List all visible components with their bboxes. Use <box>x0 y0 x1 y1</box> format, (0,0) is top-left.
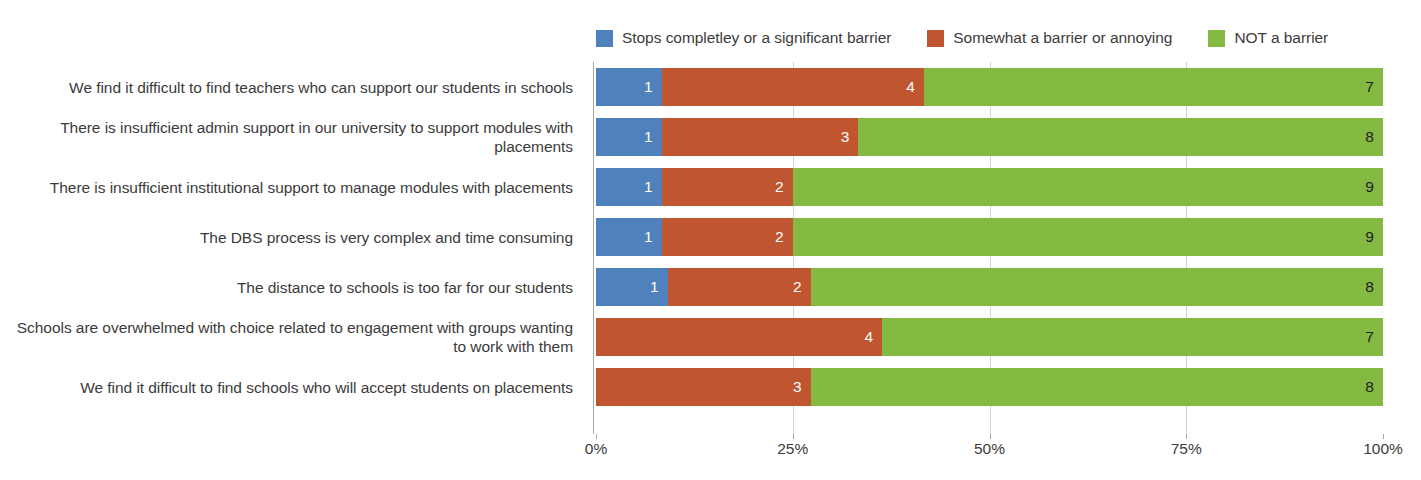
bar-segment-somewhat-5[interactable]: 4 <box>596 318 882 356</box>
bar-value-not-2: 9 <box>1365 178 1383 196</box>
bar-value-not-3: 9 <box>1365 228 1383 246</box>
bar-value-not-6: 8 <box>1365 378 1383 396</box>
bar-value-somewhat-4: 2 <box>793 278 811 296</box>
category-label-2: There is insufficient institutional supp… <box>0 178 583 197</box>
bar-value-not-4: 8 <box>1365 278 1383 296</box>
bar-segment-not-0[interactable]: 7 <box>924 68 1383 106</box>
bar-value-not-5: 7 <box>1365 328 1383 346</box>
chart-plot-area: We find it difficult to find teachers wh… <box>0 62 1421 434</box>
table-row: We find it difficult to find schools who… <box>0 362 1421 412</box>
x-axis-tick-0 <box>596 434 597 439</box>
legend-swatch-orange-icon <box>927 30 944 47</box>
category-label-4: The distance to schools is too far for o… <box>0 278 583 297</box>
stacked-bar-5: 0 4 7 <box>596 318 1383 356</box>
bar-segment-not-3[interactable]: 9 <box>793 218 1383 256</box>
bar-segment-not-5[interactable]: 7 <box>882 318 1383 356</box>
bar-segment-stops-2[interactable]: 1 <box>596 168 662 206</box>
bar-segment-stops-0[interactable]: 1 <box>596 68 662 106</box>
x-axis-tick-25 <box>793 434 794 439</box>
bar-value-somewhat-3: 2 <box>775 228 793 246</box>
x-axis: 0% 25% 50% 75% 100% <box>596 434 1383 464</box>
bar-segment-not-1[interactable]: 8 <box>858 118 1383 156</box>
legend-item-not-a-barrier[interactable]: NOT a barrier <box>1208 29 1328 47</box>
stacked-bar-6: 0 3 8 <box>596 368 1383 406</box>
bar-value-stops-3: 1 <box>644 228 662 246</box>
legend-label-stops-completely: Stops completley or a significant barrie… <box>622 29 891 47</box>
x-axis-label-0: 0% <box>585 440 607 458</box>
legend-label-somewhat-barrier: Somewhat a barrier or annoying <box>953 29 1172 47</box>
legend-swatch-blue-icon <box>596 30 613 47</box>
table-row: The DBS process is very complex and time… <box>0 212 1421 262</box>
legend-label-not-a-barrier: NOT a barrier <box>1234 29 1328 47</box>
legend-swatch-green-icon <box>1208 30 1225 47</box>
bar-segment-not-2[interactable]: 9 <box>793 168 1383 206</box>
table-row: The distance to schools is too far for o… <box>0 262 1421 312</box>
bar-segment-stops-3[interactable]: 1 <box>596 218 662 256</box>
bar-segment-stops-1[interactable]: 1 <box>596 118 662 156</box>
stacked-bar-2: 1 2 9 <box>596 168 1383 206</box>
bar-value-stops-1: 1 <box>644 128 662 146</box>
x-axis-label-50: 50% <box>974 440 1005 458</box>
stacked-bar-4: 1 2 8 <box>596 268 1383 306</box>
bar-segment-somewhat-0[interactable]: 4 <box>662 68 924 106</box>
category-label-5: Schools are overwhelmed with choice rela… <box>0 318 583 356</box>
table-row: Schools are overwhelmed with choice rela… <box>0 312 1421 362</box>
x-axis-tick-75 <box>1186 434 1187 439</box>
category-label-3: The DBS process is very complex and time… <box>0 228 583 247</box>
x-axis-label-100: 100% <box>1363 440 1403 458</box>
bar-value-somewhat-1: 3 <box>841 128 859 146</box>
bar-segment-not-6[interactable]: 8 <box>811 368 1383 406</box>
bar-value-not-0: 7 <box>1365 78 1383 96</box>
bar-segment-stops-4[interactable]: 1 <box>596 268 668 306</box>
x-axis-label-25: 25% <box>777 440 808 458</box>
x-axis-tick-100 <box>1383 434 1384 439</box>
bar-segment-somewhat-1[interactable]: 3 <box>662 118 859 156</box>
bar-rows: We find it difficult to find teachers wh… <box>0 62 1421 434</box>
bar-value-somewhat-6: 3 <box>793 378 811 396</box>
bar-value-not-1: 8 <box>1365 128 1383 146</box>
bar-value-somewhat-2: 2 <box>775 178 793 196</box>
bar-value-stops-0: 1 <box>644 78 662 96</box>
bar-value-stops-2: 1 <box>644 178 662 196</box>
stacked-bar-0: 1 4 7 <box>596 68 1383 106</box>
legend-item-somewhat-barrier[interactable]: Somewhat a barrier or annoying <box>927 29 1172 47</box>
x-axis-label-75: 75% <box>1171 440 1202 458</box>
bar-segment-somewhat-2[interactable]: 2 <box>662 168 793 206</box>
table-row: There is insufficient admin support in o… <box>0 112 1421 162</box>
legend-item-stops-completely[interactable]: Stops completley or a significant barrie… <box>596 29 891 47</box>
bar-segment-not-4[interactable]: 8 <box>811 268 1383 306</box>
category-label-6: We find it difficult to find schools who… <box>0 378 583 397</box>
bar-segment-somewhat-3[interactable]: 2 <box>662 218 793 256</box>
bar-segment-somewhat-4[interactable]: 2 <box>668 268 811 306</box>
table-row: There is insufficient institutional supp… <box>0 162 1421 212</box>
x-axis-tick-50 <box>990 434 991 439</box>
bar-segment-somewhat-6[interactable]: 3 <box>596 368 811 406</box>
stacked-bar-3: 1 2 9 <box>596 218 1383 256</box>
bar-value-somewhat-0: 4 <box>906 78 924 96</box>
table-row: We find it difficult to find teachers wh… <box>0 62 1421 112</box>
chart-legend: Stops completley or a significant barrie… <box>596 24 1396 52</box>
bar-value-somewhat-5: 4 <box>865 328 883 346</box>
category-label-0: We find it difficult to find teachers wh… <box>0 78 583 97</box>
bar-value-stops-4: 1 <box>650 278 668 296</box>
stacked-bar-1: 1 3 8 <box>596 118 1383 156</box>
category-label-1: There is insufficient admin support in o… <box>0 118 583 156</box>
